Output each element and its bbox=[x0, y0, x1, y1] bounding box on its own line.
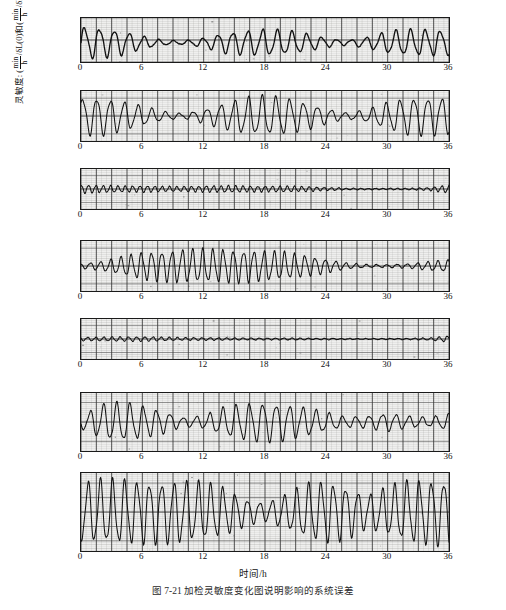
x-tick-label-delta-L-dot-bottom-6: 36 bbox=[444, 551, 453, 561]
x-tick-label-epsilon-D-4: 24 bbox=[321, 359, 330, 369]
x-tick-label-epsilon-D-0: 0 bbox=[78, 359, 83, 369]
y-axis-unit-2: (minh bbox=[14, 7, 24, 25]
x-tick-label-delta-l-3: 18 bbox=[260, 209, 269, 219]
x-tick-label-delta-L-dot-2: 12 bbox=[198, 451, 207, 461]
x-tick-label-delta-L-dot-0: 0 bbox=[78, 451, 83, 461]
x-tick-label-delta-l-6: 36 bbox=[444, 209, 453, 219]
x-tick-label-epsilon-N-3: 18 bbox=[260, 291, 269, 301]
x-tick-label-epsilon-E-3: 18 bbox=[260, 141, 269, 151]
x-tick-label-delta-L-dot-1: 6 bbox=[139, 451, 144, 461]
plot-area-epsilon-N bbox=[80, 240, 450, 292]
x-tick-label-delta-l-0: 0 bbox=[78, 209, 83, 219]
y-unit1-denominator: h bbox=[21, 56, 29, 70]
x-tick-label-delta-l-5: 30 bbox=[382, 209, 391, 219]
x-tick-label-delta-L-dot-bottom-0: 0 bbox=[78, 551, 83, 561]
plot-area-epsilon-D bbox=[80, 318, 450, 360]
x-tick-label-epsilon-N-2: 12 bbox=[198, 291, 207, 301]
plot-area-delta-l bbox=[80, 168, 450, 210]
x-tick-label-delta-L-5: 30 bbox=[382, 62, 391, 72]
y-axis-title-mid: /δL(0)和 bbox=[14, 25, 24, 55]
y-axis-unit-1: (minh bbox=[14, 55, 24, 73]
x-tick-label-epsilon-D-3: 18 bbox=[260, 359, 269, 369]
x-tick-label-epsilon-D-5: 30 bbox=[382, 359, 391, 369]
x-tick-label-epsilon-D-1: 6 bbox=[139, 359, 144, 369]
x-tick-label-epsilon-N-5: 30 bbox=[382, 291, 391, 301]
plot-area-epsilon-E bbox=[80, 90, 450, 142]
x-tick-label-epsilon-D-6: 36 bbox=[444, 359, 453, 369]
x-tick-label-epsilon-N-0: 0 bbox=[78, 291, 83, 301]
x-tick-label-delta-L-6: 36 bbox=[444, 62, 453, 72]
x-tick-label-delta-L-dot-bottom-1: 6 bbox=[139, 551, 144, 561]
x-tick-label-epsilon-E-5: 30 bbox=[382, 141, 391, 151]
x-tick-label-epsilon-E-0: 0 bbox=[78, 141, 83, 151]
y-axis-title-prefix: 灵敏度: bbox=[14, 75, 24, 104]
figure-caption: 图 7-21 加检灵敏度变化图说明影响的系统误差 bbox=[0, 583, 506, 597]
figure-root: 灵敏度: (minh/δL(0)和(minh/δL̇(0) 0.500-0.50… bbox=[0, 0, 506, 610]
x-tick-label-delta-L-dot-bottom-3: 18 bbox=[260, 551, 269, 561]
x-axis-title: 时间/h bbox=[0, 566, 506, 580]
x-tick-label-delta-L-dot-3: 18 bbox=[260, 451, 269, 461]
y-axis-title-tail: /δL̇(0) bbox=[14, 0, 24, 7]
x-tick-label-delta-l-4: 24 bbox=[321, 209, 330, 219]
x-tick-label-delta-L-dot-bottom-4: 24 bbox=[321, 551, 330, 561]
y-unit2-denominator: h bbox=[21, 8, 29, 22]
x-tick-label-epsilon-N-6: 36 bbox=[444, 291, 453, 301]
x-tick-label-delta-L-dot-6: 36 bbox=[444, 451, 453, 461]
x-tick-label-epsilon-D-2: 12 bbox=[198, 359, 207, 369]
x-tick-label-delta-l-1: 6 bbox=[139, 209, 144, 219]
x-tick-label-delta-L-dot-5: 30 bbox=[382, 451, 391, 461]
x-tick-label-epsilon-N-1: 6 bbox=[139, 291, 144, 301]
x-tick-label-delta-L-3: 18 bbox=[260, 62, 269, 72]
x-tick-label-epsilon-N-4: 24 bbox=[321, 291, 330, 301]
x-tick-label-delta-L-0: 0 bbox=[78, 62, 83, 72]
x-tick-label-epsilon-E-1: 6 bbox=[139, 141, 144, 151]
x-tick-label-delta-l-2: 12 bbox=[198, 209, 207, 219]
x-tick-label-delta-L-4: 24 bbox=[321, 62, 330, 72]
plot-area-delta-L bbox=[80, 17, 450, 63]
x-tick-label-delta-L-2: 12 bbox=[198, 62, 207, 72]
x-tick-label-epsilon-E-2: 12 bbox=[198, 141, 207, 151]
y-axis-title: 灵敏度: (minh/δL(0)和(minh/δL̇(0) bbox=[12, 0, 28, 150]
plot-area-delta-L-dot bbox=[80, 392, 450, 452]
x-tick-label-delta-L-dot-bottom-2: 12 bbox=[198, 551, 207, 561]
x-tick-label-delta-L-1: 6 bbox=[139, 62, 144, 72]
plot-area-delta-L-dot-bottom bbox=[80, 472, 450, 552]
x-tick-label-epsilon-E-4: 24 bbox=[321, 141, 330, 151]
x-tick-label-epsilon-E-6: 36 bbox=[444, 141, 453, 151]
x-tick-label-delta-L-dot-bottom-5: 30 bbox=[382, 551, 391, 561]
x-tick-label-delta-L-dot-4: 24 bbox=[321, 451, 330, 461]
